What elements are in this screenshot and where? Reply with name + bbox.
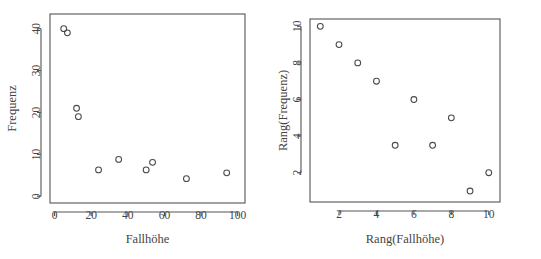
x-tick-label: 10: [483, 208, 495, 220]
data-point: [411, 97, 417, 103]
x-tick-label: 6: [411, 208, 417, 220]
data-point: [75, 114, 81, 120]
x-tick-label: 60: [159, 209, 171, 221]
x-axis-left: 020406080100: [52, 209, 247, 221]
y-tick-label: 40: [30, 23, 42, 35]
x-tick-label: 80: [195, 209, 207, 221]
chart-panel-left: 020406080100 010203040 Fallhöhe Frequenz: [0, 0, 271, 259]
data-point: [96, 167, 102, 173]
data-points-left: [61, 26, 230, 182]
x-tick-label: 4: [374, 208, 380, 220]
y-axis-right: 246810: [291, 20, 303, 175]
data-point: [392, 142, 398, 148]
data-point: [430, 142, 436, 148]
data-point: [224, 170, 230, 176]
x-tick-label: 0: [52, 209, 58, 221]
y-tick-label: 30: [30, 65, 42, 77]
data-point: [64, 30, 70, 36]
y-tick-label: 10: [30, 148, 42, 160]
data-points-right: [317, 23, 491, 194]
x-axis-title-right: Rang(Fallhöhe): [366, 232, 444, 246]
x-tick-label: 8: [448, 208, 454, 220]
y-axis-title-left: Frequenz: [5, 85, 19, 132]
data-point: [116, 157, 122, 163]
scatter-plot-frequenz-vs-fallhoehe: 020406080100 010203040 Fallhöhe Frequenz: [0, 0, 271, 259]
y-axis-title-right: Rang(Frequenz): [276, 70, 290, 151]
data-point: [143, 167, 149, 173]
y-tick-label: 0: [30, 193, 42, 199]
data-point: [467, 188, 473, 194]
data-point: [486, 170, 492, 176]
scatter-plot-rang-frequenz-vs-rang-fallhoehe: 246810 246810 Rang(Fallhöhe) Rang(Freque…: [271, 0, 541, 259]
data-point: [150, 159, 156, 165]
figure-scatterplot-pair: 020406080100 010203040 Fallhöhe Frequenz…: [0, 0, 541, 259]
data-point: [74, 105, 80, 111]
y-tick-label: 4: [291, 133, 303, 139]
y-tick-label: 8: [291, 60, 303, 66]
y-tick-label: 2: [291, 170, 303, 176]
plot-frame-right: [310, 19, 500, 202]
data-point: [355, 60, 361, 66]
y-axis-left: 010203040: [30, 23, 42, 200]
x-axis-right: 246810: [336, 208, 495, 220]
data-point: [336, 42, 342, 48]
x-axis-title-left: Fallhöhe: [126, 232, 170, 246]
y-tick-label: 10: [291, 20, 303, 32]
x-tick-label: 100: [229, 209, 247, 221]
x-tick-label: 20: [85, 209, 97, 221]
chart-panel-right: 246810 246810 Rang(Fallhöhe) Rang(Freque…: [271, 0, 541, 259]
plot-box: [310, 19, 500, 202]
x-tick-label: 2: [336, 208, 342, 220]
data-point: [448, 115, 454, 121]
data-point: [317, 23, 323, 29]
y-tick-label: 6: [291, 96, 303, 102]
data-point: [184, 176, 190, 182]
x-tick-label: 40: [122, 209, 134, 221]
data-point: [374, 78, 380, 84]
y-tick-label: 20: [30, 106, 42, 118]
